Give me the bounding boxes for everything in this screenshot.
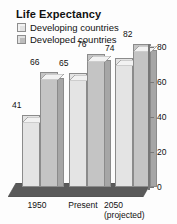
bar-front-face <box>69 73 87 187</box>
bar-front-face <box>22 115 40 187</box>
plot-area: 416574667682 80 60 40 20 0 1950 Present … <box>0 0 177 224</box>
bar-top-face <box>40 66 64 72</box>
x-label-2050-note: (projected) <box>104 210 145 220</box>
bar-2-developed <box>87 54 105 187</box>
bar-side-face <box>58 78 64 188</box>
bar-front-face <box>40 72 58 188</box>
y-tick-0 <box>148 187 154 188</box>
bar-top-face <box>87 48 111 54</box>
x-label-2050: 2050 (projected) <box>104 200 162 220</box>
bar-value-label: 82 <box>123 29 132 39</box>
y-tick-20 <box>148 152 154 153</box>
bar-1-developing <box>22 115 40 187</box>
bar-3-developing <box>115 58 133 188</box>
bar-top-face <box>133 38 157 44</box>
bar-2-developing <box>69 73 87 187</box>
y-tick-label-20: 20 <box>157 147 166 157</box>
bar-front-face <box>115 58 133 188</box>
y-tick-label-60: 60 <box>157 77 166 87</box>
y-tick-40 <box>148 117 154 118</box>
y-tick-60 <box>148 82 154 83</box>
y-tick-80 <box>148 47 154 48</box>
bar-1-developed <box>40 72 58 188</box>
bar-value-label: 41 <box>12 100 21 110</box>
bar-value-label: 76 <box>77 39 86 49</box>
bar-value-label: 66 <box>30 57 39 67</box>
bar-front-face <box>87 54 105 187</box>
y-tick-label-0: 0 <box>157 182 162 192</box>
y-tick-label-40: 40 <box>157 112 166 122</box>
x-label-1950: 1950 <box>11 200 63 210</box>
bar-side-face <box>105 60 111 187</box>
y-tick-label-80: 80 <box>157 42 166 52</box>
x-label-2050-year: 2050 <box>104 200 123 210</box>
x-label-present: Present <box>57 200 109 210</box>
life-expectancy-chart: Life Expectancy Developing countries Dev… <box>0 0 177 224</box>
